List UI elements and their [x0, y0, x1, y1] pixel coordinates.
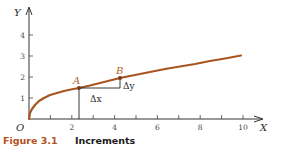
y-tick-label-4: 4: [20, 31, 25, 40]
x-tick-label-6: 6: [155, 123, 160, 132]
y-tick-label-2: 2: [20, 73, 25, 82]
y-ticks: [29, 35, 33, 98]
y-axis-label: Y: [14, 7, 22, 18]
y-tick-label-3: 3: [20, 52, 25, 61]
increments-figure: 2 4 6 8 10 1 2 3 4 Y X O A B Δx Δy: [0, 0, 282, 135]
function-curve-line: [29, 56, 241, 120]
point-a-label: A: [72, 75, 80, 86]
axes: [26, 7, 263, 122]
x-tick-label-8: 8: [198, 123, 203, 132]
x-tick-label-10: 10: [238, 123, 248, 132]
delta-x-label: Δx: [90, 94, 102, 104]
point-a-marker: [77, 86, 81, 90]
figure-title: Increments: [75, 135, 135, 146]
delta-y-label: Δy: [123, 81, 135, 91]
figure-caption: Figure 3.1 Increments: [3, 135, 135, 146]
y-tick-label-1: 1: [20, 94, 25, 103]
x-tick-label-2: 2: [69, 123, 74, 132]
point-b-marker: [118, 76, 122, 80]
figure-number: Figure 3.1: [3, 135, 58, 146]
x-axis-label: X: [259, 122, 268, 133]
point-b-label: B: [115, 65, 123, 76]
origin-label: O: [16, 122, 24, 133]
x-tick-label-4: 4: [112, 123, 117, 132]
